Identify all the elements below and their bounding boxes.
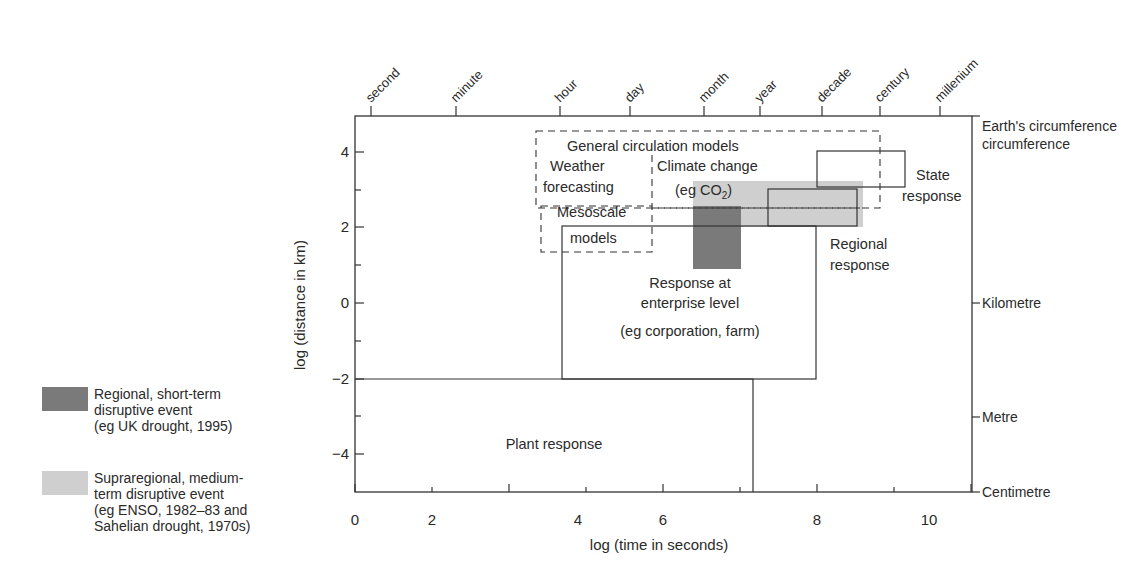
weather-label-2: forecasting (543, 179, 614, 195)
svg-text:10: 10 (921, 511, 938, 528)
enterprise-label-3: (eg corporation, farm) (620, 323, 759, 339)
top-ticks (371, 106, 940, 116)
svg-text:2: 2 (341, 218, 349, 235)
svg-text:decade: decade (814, 64, 855, 105)
svg-text:0: 0 (341, 294, 349, 311)
svg-text:0: 0 (351, 511, 359, 528)
svg-text:−2: −2 (332, 370, 349, 387)
svg-text:millenium: millenium (932, 56, 981, 105)
svg-text:8: 8 (813, 511, 821, 528)
svg-text:day: day (622, 79, 648, 105)
mesoscale-label-1: Mesoscale (557, 204, 626, 220)
svg-text:6: 6 (659, 511, 667, 528)
svg-text:−4: −4 (332, 445, 349, 462)
mesoscale-label-2: models (570, 230, 617, 246)
right-label-circumference-line2: circumference (982, 136, 1070, 152)
legend-label: Supraregional, medium- term disruptive e… (94, 470, 324, 534)
right-ticks (972, 116, 980, 492)
left-ticks (355, 152, 364, 454)
legend-label: Regional, short-term disruptive event (e… (94, 386, 324, 434)
right-distance-labels: Earth's circumference Kilometre Metre Ce… (982, 118, 1117, 500)
supraregional-swatch (42, 471, 88, 495)
state-label-2: response (902, 188, 962, 204)
top-time-labels: second minute hour day month year decade… (363, 56, 981, 105)
y-axis-label: log (distance in km) (291, 240, 308, 370)
enterprise-label-1: Response at (649, 275, 730, 291)
state-label-1: State (916, 167, 950, 183)
svg-text:4: 4 (574, 511, 582, 528)
regional-label-1: Regional (830, 236, 887, 252)
svg-text:Metre: Metre (982, 409, 1018, 425)
svg-text:minute: minute (448, 67, 486, 105)
weather-label-1: Weather (550, 158, 605, 174)
svg-text:Kilometre: Kilometre (982, 295, 1041, 311)
climate-change-label: Climate change (657, 158, 758, 174)
svg-text:century: century (872, 64, 913, 105)
y-tick-labels: 4 2 0 −2 −4 (332, 143, 349, 462)
gcm-label: General circulation models (567, 138, 739, 154)
regional-swatch (42, 387, 88, 411)
x-tick-labels: 0 2 4 6 8 10 (351, 511, 938, 528)
svg-text:second: second (363, 65, 403, 105)
svg-text:year: year (752, 76, 781, 105)
svg-text:month: month (696, 69, 732, 105)
svg-text:4: 4 (341, 143, 349, 160)
svg-text:Centimetre: Centimetre (982, 484, 1051, 500)
x-axis-label: log (time in seconds) (590, 536, 728, 553)
svg-text:Earth's circumference: Earth's circumference (982, 118, 1117, 134)
regional-event-area (693, 206, 741, 269)
svg-text:hour: hour (552, 76, 581, 105)
regional-label-2: response (830, 257, 890, 273)
bottom-ticks (355, 484, 971, 492)
svg-text:2: 2 (428, 511, 436, 528)
plant-label: Plant response (506, 436, 603, 452)
enterprise-label-2: enterprise level (641, 295, 739, 311)
